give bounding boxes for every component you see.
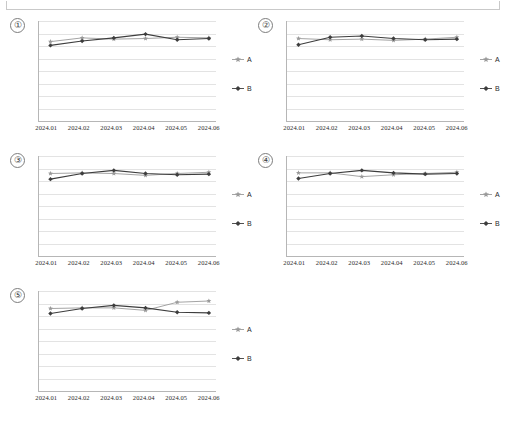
- data-point-B: [80, 306, 84, 310]
- x-axis-tick-label: 2024.06: [441, 259, 474, 266]
- chart-series-canvas: [38, 291, 216, 391]
- chart-x-axis-labels-3: 2024.012024.022024.032024.042024.052024.…: [30, 259, 225, 266]
- x-axis-tick-label: 2024.03: [95, 259, 128, 266]
- legend-label-a: A: [247, 190, 252, 199]
- diamond-marker-icon: [480, 219, 492, 228]
- data-point-B: [112, 303, 116, 307]
- x-axis-tick-label: 2024.01: [278, 124, 311, 131]
- data-point-B: [112, 168, 116, 172]
- data-point-A: [175, 300, 180, 305]
- star-marker-icon: [480, 55, 492, 64]
- chart-x-axis-labels-1: 2024.012024.022024.032024.042024.052024.…: [30, 124, 225, 131]
- chart-index-1: ①: [10, 18, 25, 33]
- legend-item-b[interactable]: B: [232, 353, 252, 363]
- star-marker-icon: [232, 55, 244, 64]
- chart-plot-area-1: [38, 21, 216, 121]
- data-point-B: [48, 311, 52, 315]
- data-point-B: [328, 35, 332, 39]
- x-axis-line: [286, 121, 464, 122]
- legend-item-a[interactable]: A: [232, 54, 252, 64]
- chart-x-axis-labels-5: 2024.012024.022024.032024.042024.052024.…: [30, 394, 225, 401]
- chart-x-axis-labels-2: 2024.012024.022024.032024.042024.052024.…: [278, 124, 473, 131]
- chart-legend-3: AB: [232, 189, 252, 228]
- data-point-A: [48, 39, 53, 44]
- diamond-marker-icon: [232, 84, 244, 93]
- legend-label-b: B: [495, 219, 500, 228]
- x-axis-tick-label: 2024.05: [408, 259, 441, 266]
- x-axis-tick-label: 2024.06: [193, 394, 226, 401]
- data-point-A: [48, 306, 53, 311]
- legend-label-b: B: [247, 84, 252, 93]
- legend-item-b[interactable]: B: [480, 83, 500, 93]
- x-axis-tick-label: 2024.02: [311, 124, 344, 131]
- legend-label-b: B: [247, 354, 252, 363]
- data-point-B: [296, 176, 300, 180]
- chart-series-canvas: [38, 21, 216, 121]
- chart-panel-1: ① 2024.012024.022024.032024.042024.05202…: [10, 18, 250, 136]
- data-point-B: [143, 32, 147, 36]
- x-axis-tick-label: 2024.06: [441, 124, 474, 131]
- x-axis-tick-label: 2024.04: [376, 124, 409, 131]
- star-marker-icon: [232, 190, 244, 199]
- data-point-A: [359, 174, 364, 179]
- chart-index-2: ②: [258, 18, 273, 33]
- x-axis-tick-label: 2024.01: [278, 259, 311, 266]
- data-point-B: [48, 43, 52, 47]
- diamond-marker-icon: [232, 354, 244, 363]
- chart-panel-5: ⑤ 2024.012024.022024.032024.042024.05202…: [10, 288, 250, 410]
- legend-label-a: A: [247, 325, 252, 334]
- legend-item-b[interactable]: B: [232, 83, 252, 93]
- chart-index-5: ⑤: [10, 288, 25, 303]
- x-axis-line: [38, 121, 216, 122]
- x-axis-tick-label: 2024.01: [30, 394, 63, 401]
- legend-item-b[interactable]: B: [232, 218, 252, 228]
- data-point-B: [143, 306, 147, 310]
- legend-label-a: A: [495, 55, 500, 64]
- x-axis-line: [286, 256, 464, 257]
- data-point-A: [206, 298, 211, 303]
- data-point-B: [423, 172, 427, 176]
- legend-item-a[interactable]: A: [480, 54, 500, 64]
- data-point-B: [207, 311, 211, 315]
- data-point-B: [48, 177, 52, 181]
- document-frame-edge: [6, 1, 500, 10]
- legend-item-a[interactable]: A: [232, 324, 252, 334]
- chart-index-4: ④: [258, 153, 273, 168]
- chart-series-canvas: [286, 21, 464, 121]
- chart-legend-1: AB: [232, 54, 252, 93]
- x-axis-tick-label: 2024.03: [95, 124, 128, 131]
- data-point-B: [80, 39, 84, 43]
- diamond-marker-icon: [480, 84, 492, 93]
- chart-plot-area-5: [38, 291, 216, 391]
- legend-label-a: A: [247, 55, 252, 64]
- x-axis-line: [38, 256, 216, 257]
- chart-index-3: ③: [10, 153, 25, 168]
- chart-panel-4: ④ 2024.012024.022024.032024.042024.05202…: [258, 153, 498, 271]
- data-point-B: [423, 38, 427, 42]
- x-axis-tick-label: 2024.02: [63, 124, 96, 131]
- series-line-B: [50, 34, 208, 45]
- x-axis-tick-label: 2024.01: [30, 124, 63, 131]
- legend-item-a[interactable]: A: [232, 189, 252, 199]
- x-axis-tick-label: 2024.02: [311, 259, 344, 266]
- data-point-B: [207, 36, 211, 40]
- star-marker-icon: [232, 325, 244, 334]
- series-line-B: [298, 36, 456, 45]
- chart-x-axis-labels-4: 2024.012024.022024.032024.042024.052024.…: [278, 259, 473, 266]
- data-point-B: [328, 171, 332, 175]
- data-point-A: [296, 170, 301, 175]
- x-axis-tick-label: 2024.02: [63, 259, 96, 266]
- chart-legend-5: AB: [232, 324, 252, 363]
- legend-item-b[interactable]: B: [480, 218, 500, 228]
- x-axis-tick-label: 2024.05: [160, 259, 193, 266]
- chart-panel-2: ② 2024.012024.022024.032024.042024.05202…: [258, 18, 498, 136]
- data-point-A: [296, 36, 301, 41]
- x-axis-tick-label: 2024.05: [408, 124, 441, 131]
- legend-label-a: A: [495, 190, 500, 199]
- chart-plot-area-2: [286, 21, 464, 121]
- data-point-A: [143, 36, 148, 41]
- chart-plot-area-3: [38, 156, 216, 256]
- data-point-B: [175, 38, 179, 42]
- legend-item-a[interactable]: A: [480, 189, 500, 199]
- legend-label-b: B: [247, 219, 252, 228]
